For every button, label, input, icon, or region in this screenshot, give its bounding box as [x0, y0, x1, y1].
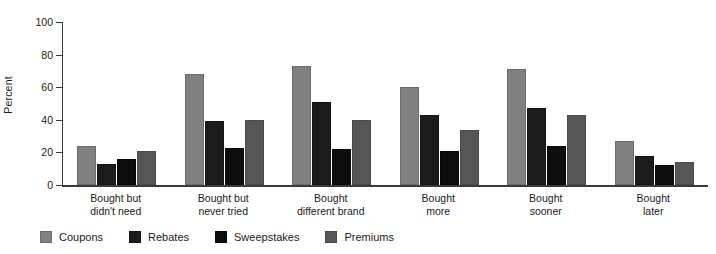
bar	[352, 120, 371, 185]
x-axis-category-label: Boughtlater	[600, 192, 708, 218]
bar	[615, 141, 634, 185]
y-tick-mark	[56, 185, 62, 186]
y-axis-label: Percent	[2, 60, 14, 130]
bar	[205, 121, 224, 185]
y-tick-mark	[56, 87, 62, 88]
category-label-line: more	[385, 205, 493, 218]
bar-group	[185, 22, 264, 185]
legend-swatch	[325, 231, 337, 243]
bar	[440, 151, 459, 185]
bar	[400, 87, 419, 185]
category-label-line: sooner	[492, 205, 600, 218]
legend-label: Sweepstakes	[234, 231, 299, 243]
category-label-line: later	[600, 205, 708, 218]
bar-group	[77, 22, 156, 185]
y-tick-label: 100	[35, 16, 53, 28]
plot-area: 020406080100	[62, 22, 708, 186]
legend-swatch	[40, 231, 52, 243]
bar	[332, 149, 351, 185]
bar	[655, 165, 674, 185]
y-tick-label: 40	[41, 114, 53, 126]
legend-label: Rebates	[148, 231, 189, 243]
bar	[245, 120, 264, 185]
x-axis-category-label: Boughtdifferent brand	[277, 192, 385, 218]
bar	[507, 69, 526, 185]
x-axis-category-label: Bought butnever tried	[170, 192, 278, 218]
legend-item[interactable]: Rebates	[129, 231, 189, 243]
bar	[635, 156, 654, 185]
bar	[547, 146, 566, 185]
legend-item[interactable]: Sweepstakes	[215, 231, 299, 243]
category-label-line: Bought	[277, 192, 385, 205]
x-axis-category-labels: Bought butdidn't needBought butnever tri…	[62, 192, 708, 220]
y-tick-mark	[56, 152, 62, 153]
category-label-line: Bought	[385, 192, 493, 205]
y-tick-mark	[56, 120, 62, 121]
y-tick-mark	[56, 55, 62, 56]
y-tick-label: 0	[47, 179, 53, 191]
bar	[567, 115, 586, 185]
y-tick-label: 20	[41, 146, 53, 158]
bar-group	[292, 22, 371, 185]
bar	[225, 148, 244, 185]
bar-groups	[63, 22, 708, 185]
bar	[97, 164, 116, 185]
bar	[137, 151, 156, 185]
category-label-line: Bought	[492, 192, 600, 205]
bar	[527, 108, 546, 185]
legend-swatch	[129, 231, 141, 243]
legend-item[interactable]: Coupons	[40, 231, 103, 243]
category-label-line: Bought but	[170, 192, 278, 205]
category-label-line: Bought	[600, 192, 708, 205]
bar	[675, 162, 694, 185]
bar-group	[400, 22, 479, 185]
category-label-line: didn't need	[62, 205, 170, 218]
y-tick-label: 80	[41, 49, 53, 61]
bar-chart: Percent 020406080100 Bought butdidn't ne…	[0, 0, 716, 254]
y-tick-mark	[56, 22, 62, 23]
x-axis-category-label: Boughtsooner	[492, 192, 600, 218]
bar	[117, 159, 136, 185]
category-label-line: Bought but	[62, 192, 170, 205]
x-axis-line	[62, 185, 708, 187]
bar	[460, 130, 479, 185]
y-tick-label: 60	[41, 81, 53, 93]
category-label-line: different brand	[277, 205, 385, 218]
chart-legend: CouponsRebatesSweepstakesPremiums	[40, 228, 420, 246]
bar	[77, 146, 96, 185]
legend-label: Premiums	[344, 231, 394, 243]
bar-group	[615, 22, 694, 185]
legend-swatch	[215, 231, 227, 243]
category-label-line: never tried	[170, 205, 278, 218]
legend-item[interactable]: Premiums	[325, 231, 394, 243]
bar	[292, 66, 311, 185]
legend-label: Coupons	[59, 231, 103, 243]
bar	[312, 102, 331, 185]
x-axis-category-label: Bought butdidn't need	[62, 192, 170, 218]
x-axis-category-label: Boughtmore	[385, 192, 493, 218]
bar	[420, 115, 439, 185]
bar	[185, 74, 204, 185]
bar-group	[507, 22, 586, 185]
